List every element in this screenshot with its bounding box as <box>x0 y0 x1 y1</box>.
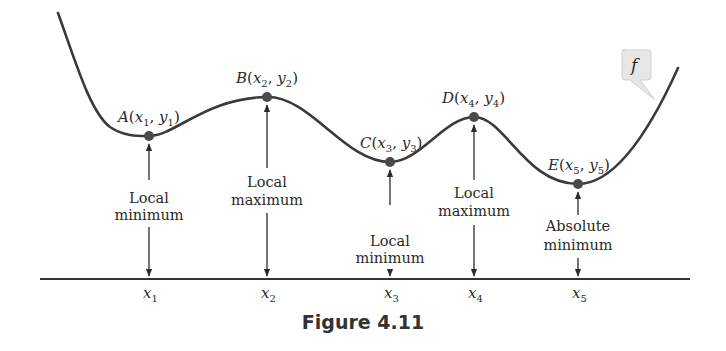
point-a-type-line1: Local <box>129 190 169 206</box>
point-d: D(x4, y4) Local maximum x4 <box>438 89 510 304</box>
tick-x3: x3 <box>384 284 399 304</box>
point-d-type-line1: Local <box>454 185 494 201</box>
point-c-type-line2: minimum <box>355 250 424 266</box>
point-e-type-line1: Absolute <box>545 218 610 234</box>
figure-caption: Figure 4.11 <box>0 311 726 333</box>
tick-x2: x2 <box>261 284 276 304</box>
tick-x4: x4 <box>468 284 483 304</box>
point-e-type-line2: minimum <box>543 237 612 253</box>
tick-x5: x5 <box>572 284 587 304</box>
point-d-type-line2: maximum <box>438 203 510 219</box>
point-a: A(x1, y1) Local minimum x1 <box>114 108 183 304</box>
point-a-label: A(x1, y1) <box>116 108 180 128</box>
point-c-type-line1: Local <box>370 233 410 249</box>
extrema-diagram: f A(x1, y1) Local minimum x1 B(x2, y2) L… <box>0 0 726 351</box>
tick-x1: x1 <box>143 284 158 304</box>
point-c-label: C(x3, y3) <box>360 134 422 154</box>
point-d-label: D(x4, y4) <box>441 89 505 109</box>
point-b-label: B(x2, y2) <box>235 69 298 89</box>
function-label-callout: f <box>622 50 655 100</box>
point-a-type-line2: minimum <box>114 207 183 223</box>
point-e-label: E(x5, y5) <box>547 156 610 176</box>
point-b-type-line2: maximum <box>231 192 303 208</box>
point-b-type-line1: Local <box>247 174 287 190</box>
